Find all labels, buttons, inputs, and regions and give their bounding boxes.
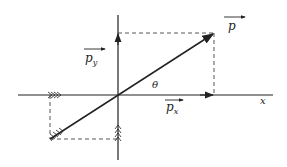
- label-py: py: [84, 49, 105, 67]
- label-theta: θ: [152, 79, 158, 90]
- label-p-text: p: [228, 19, 236, 33]
- label-py-sub: y: [92, 58, 98, 67]
- vector-diagram: p py px θ x: [0, 0, 287, 167]
- label-px-sub: x: [174, 107, 179, 116]
- svg-text:py: py: [85, 51, 98, 67]
- svg-text:px: px: [166, 100, 179, 116]
- label-px: px: [165, 100, 183, 116]
- label-x-axis: x: [260, 95, 266, 106]
- vector-p: [50, 34, 213, 139]
- label-p: p: [224, 17, 245, 33]
